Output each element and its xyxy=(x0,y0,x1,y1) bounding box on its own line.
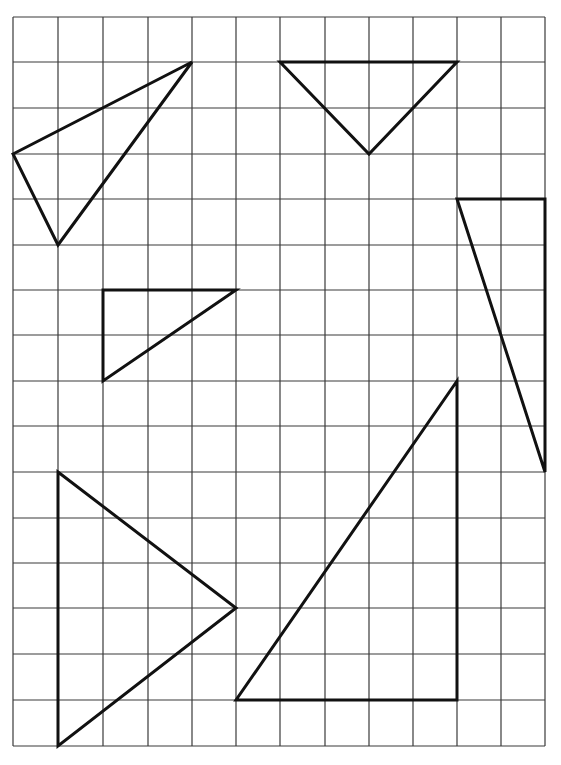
grid-diagram xyxy=(0,0,561,765)
triangles xyxy=(13,62,545,746)
triangle-bottom-right-large xyxy=(236,381,457,700)
triangle-bottom-left xyxy=(58,472,236,746)
